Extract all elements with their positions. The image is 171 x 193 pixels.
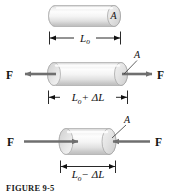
panel-unstressed: A Lo <box>49 6 121 47</box>
force-label-left-compression: F <box>7 136 14 148</box>
dimension-base: L <box>71 168 78 180</box>
panel-compression: F F A Lo− ΔL <box>7 114 162 183</box>
dimension-arrow-right <box>109 164 115 169</box>
area-label-compression: A <box>123 114 131 125</box>
dimension-arrow-right <box>121 95 127 100</box>
dimension-base: L <box>79 32 86 44</box>
panel-tension: F F A Lo+ ΔL <box>6 49 164 106</box>
dimension-arrow-right <box>114 36 120 41</box>
dimension-label-tension: Lo+ ΔL <box>71 91 105 106</box>
area-leader-line-compression <box>112 125 126 138</box>
figure-caption: FIGURE 9-5 <box>6 183 55 193</box>
force-label-right-compression: F <box>155 136 162 148</box>
figure-container: A Lo <box>0 0 171 193</box>
dimension-suffix: − ΔL <box>82 168 105 180</box>
dimension-label-unstressed: Lo <box>79 32 90 47</box>
dimension-sub: o <box>86 37 90 46</box>
area-label-unstressed: A <box>110 10 118 21</box>
dimension-suffix: + ΔL <box>82 91 105 103</box>
cylinder-tension <box>48 63 128 86</box>
dimension-arrow-left <box>50 36 56 41</box>
dimension-label-compression: Lo− ΔL <box>71 168 105 183</box>
force-label-left-tension: F <box>6 69 13 81</box>
dimension-compression: Lo− ΔL <box>61 161 116 183</box>
force-label-right-tension: F <box>157 69 164 81</box>
dimension-tension: Lo+ ΔL <box>49 91 128 106</box>
dimension-arrow-left <box>61 164 67 169</box>
dimension-arrow-left <box>49 95 55 100</box>
area-label-tension: A <box>133 49 141 60</box>
dimension-unstressed: Lo <box>50 32 121 47</box>
stress-strain-figure: A Lo <box>0 0 171 193</box>
dimension-base: L <box>71 91 78 103</box>
